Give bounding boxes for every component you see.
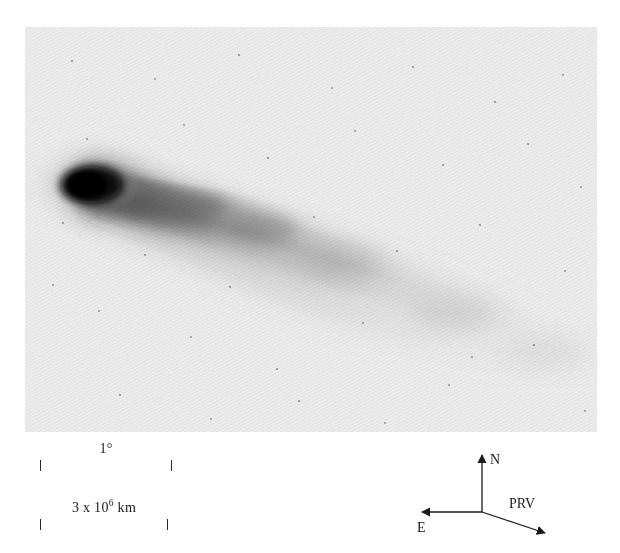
comet-image-canvas (25, 27, 597, 432)
angular-scale-label: 1° (40, 442, 172, 456)
prv-label: PRV (509, 497, 535, 511)
linear-scale-mantissa: 3 x 10 (72, 500, 109, 515)
film-grain (25, 27, 597, 432)
east-label: E (417, 521, 426, 535)
linear-scale-unit: km (114, 500, 136, 515)
prv-arrow (482, 512, 545, 533)
linear-scale-tick-left (40, 519, 41, 530)
north-label: N (490, 453, 500, 467)
figure-root: 1° 3 x 106 km N E PRV (0, 0, 620, 553)
linear-scale-label: 3 x 106 km (40, 501, 168, 515)
compass-arrows (405, 443, 565, 548)
orientation-compass: N E PRV (405, 443, 565, 548)
linear-scale-tick-right (167, 519, 168, 530)
comet-photographic-plate (25, 27, 597, 432)
angular-scale-tick-left (40, 460, 41, 471)
angular-scale-tick-right (171, 460, 172, 471)
